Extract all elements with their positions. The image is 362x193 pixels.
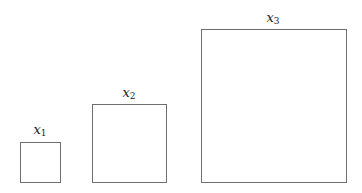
label-x2: x2: [122, 86, 135, 101]
label-x1: x1: [33, 123, 46, 138]
square-x3: [201, 29, 347, 183]
label-x3: x3: [266, 11, 279, 26]
square-x1: [20, 142, 61, 183]
square-x2: [92, 104, 167, 183]
